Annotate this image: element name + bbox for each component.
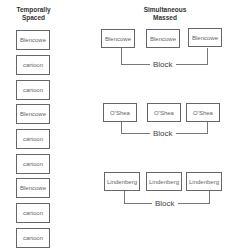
spaced-item: cartoon [16, 228, 50, 248]
spaced-item: cartoon [16, 203, 50, 223]
spaced-item: Blencowe [16, 178, 50, 198]
block-label: Block [150, 129, 176, 138]
spaced-item: Blencowe [16, 104, 50, 124]
massed-item: O'Shea [103, 103, 137, 122]
massed-item: Blencowe [101, 29, 135, 48]
massed-item: Lindenberg [104, 172, 140, 191]
massed-item: O'Shea [147, 103, 181, 122]
heading-line: Spaced [6, 14, 61, 22]
block-label: Block [150, 60, 176, 69]
massed-item: O'Shea [186, 103, 220, 122]
spaced-item: cartoon [16, 55, 50, 75]
massed-item: Lindenberg [146, 172, 182, 191]
block-label: Block [152, 199, 178, 208]
massed-item: Lindenberg [186, 172, 222, 191]
simultaneous-massed-heading: Simultaneous Massed [130, 6, 200, 21]
heading-line: Simultaneous [130, 6, 200, 14]
temporally-spaced-heading: Temporally Spaced [6, 6, 61, 21]
massed-item: Blencowe [188, 28, 222, 47]
heading-line: Temporally [6, 6, 61, 14]
spaced-item: cartoon [16, 129, 50, 149]
massed-item: Blencowe [146, 29, 180, 48]
spaced-item: cartoon [16, 80, 50, 100]
spaced-item: cartoon [16, 154, 50, 174]
spaced-item: Blencowe [16, 30, 50, 50]
heading-line: Massed [130, 14, 200, 22]
